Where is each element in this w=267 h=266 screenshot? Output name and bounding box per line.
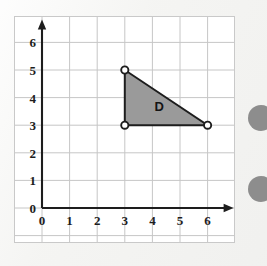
y-tick-label-6: 6 <box>30 36 37 49</box>
screenshot-root: 01234560123456 D <box>0 0 267 266</box>
y-tick-label-5: 5 <box>30 64 37 77</box>
y-tick-label-1: 1 <box>30 174 37 187</box>
x-tick-label-4: 4 <box>149 214 156 227</box>
y-tick-label-3: 3 <box>30 119 37 132</box>
edge-circle-marker-bottom[interactable] <box>248 176 267 202</box>
y-tick-label-2: 2 <box>30 146 37 159</box>
x-tick-label-2: 2 <box>94 214 101 227</box>
coordinate-plot: 01234560123456 D <box>14 16 235 243</box>
x-tick-label-3: 3 <box>122 214 129 227</box>
shape-label-d: D <box>155 98 164 113</box>
x-tick-label-1: 1 <box>66 214 73 227</box>
edge-circle-marker-top[interactable] <box>248 105 267 131</box>
x-tick-label-0: 0 <box>39 214 46 227</box>
x-tick-label-5: 5 <box>177 214 184 227</box>
y-tick-label-0: 0 <box>30 202 37 215</box>
y-tick-label-4: 4 <box>30 91 37 104</box>
triangle-shape-d <box>15 17 235 243</box>
x-tick-label-6: 6 <box>204 214 211 227</box>
